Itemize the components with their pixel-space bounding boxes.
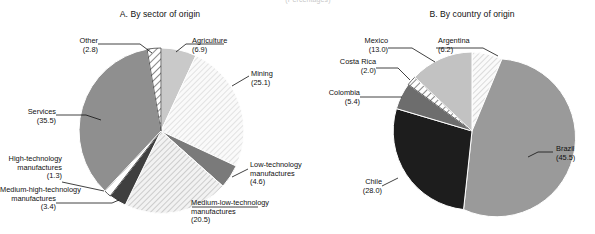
figure-canvas: (Percentages) A. By sector of origin B. … xyxy=(0,0,595,234)
label-brazil: Brazil (45.5) xyxy=(556,145,595,162)
label-colombia: Colombia (5.4) xyxy=(308,89,360,106)
label-low-technology-manufactures: Low-technology manufactures (4.6) xyxy=(250,161,330,187)
label-services: Services (35.5) xyxy=(6,108,56,125)
leader-mining xyxy=(232,76,249,86)
leader-mexico xyxy=(388,48,435,62)
leader-chile xyxy=(382,178,398,186)
panel-a-slices xyxy=(79,48,244,213)
leader-costa-rica xyxy=(376,68,410,80)
label-medium-high-technology-manufactures: Medium-high-technology manufactures (3.4… xyxy=(0,186,56,212)
label-medium-low-technology-manufactures: Medium-low-technology manufactures (20.5… xyxy=(191,199,301,225)
label-mining: Mining (25.1) xyxy=(251,70,301,87)
label-argentina: Argentina (6.2) xyxy=(438,37,496,54)
label-other: Other (2.8) xyxy=(46,37,98,54)
panel-b-slices xyxy=(393,52,575,217)
label-costa-rica: Costa Rica (2.0) xyxy=(318,58,376,75)
label-chile: Chile (28.0) xyxy=(338,178,382,195)
label-mexico: Mexico (13.0) xyxy=(333,37,388,54)
leader-medhigh xyxy=(56,200,119,203)
label-high-technology-manufactures: High-technology manufactures (1.3) xyxy=(0,155,62,181)
label-agriculture: Agriculture (6.9) xyxy=(192,37,256,54)
